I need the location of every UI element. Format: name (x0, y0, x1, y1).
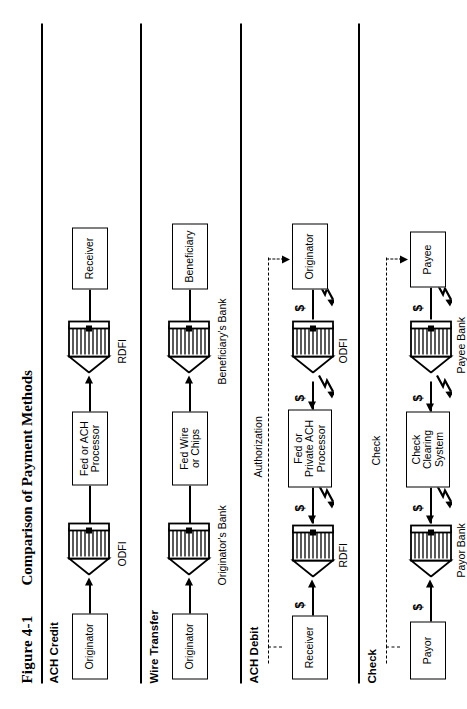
dollar-symbol: $ (411, 504, 425, 511)
connector-line (89, 289, 91, 321)
node-label: Receiver (304, 626, 316, 667)
dollar-symbol: $ (293, 601, 307, 608)
section-label-ach-credit: ACH Credit (48, 622, 60, 683)
bank-label-odfi-ach-debit: ODFI (337, 338, 349, 363)
connector-line (89, 583, 91, 613)
bank-icon-odfi-ach-credit (66, 521, 112, 575)
bank-label-payor-bank: Payor Bank (455, 523, 467, 577)
section-label-check: Check (366, 648, 378, 683)
node-label-line2: Processor (90, 424, 102, 471)
node-check-clearing-system[interactable]: Check Clearing System (406, 411, 450, 487)
node-label: Receiver (84, 237, 96, 278)
connector-line (189, 381, 191, 411)
arrow-head-icon (426, 579, 434, 587)
bank-label-odfi-ach-credit: ODFI (116, 541, 128, 566)
dollar-symbol: $ (293, 394, 307, 401)
section-divider (240, 23, 242, 683)
arrow-head-icon (185, 375, 193, 383)
bank-icon-rdfi-ach-debit (290, 523, 336, 577)
connector-line (189, 485, 191, 523)
node-originator-ach-debit[interactable]: Originator (292, 223, 328, 289)
arrow-head-icon (282, 255, 290, 263)
bank-label-rdfi-ach-credit: RDFI (116, 339, 128, 364)
node-label: Originator (304, 233, 316, 279)
node-label: Beneficiary (184, 230, 196, 282)
node-fedwire-chips[interactable]: Fed Wire or Chips (172, 411, 208, 485)
lightning-bolt-icon (318, 373, 334, 413)
bank-label-rdfi-ach-debit: RDFI (337, 543, 349, 568)
arrow-head-icon (426, 403, 434, 411)
bank-icon-payor-bank (408, 523, 454, 577)
node-label-line3: Processor (316, 424, 328, 471)
node-label-line2: or Chips (190, 428, 202, 467)
arrow-head-icon (85, 577, 93, 585)
node-payor[interactable]: Payor (410, 621, 446, 679)
lightning-bolt-icon (436, 373, 452, 413)
arrow-head-icon (185, 577, 193, 585)
node-originator-wire[interactable]: Originator (172, 613, 208, 679)
section-label-ach-debit: ACH Debit (248, 626, 260, 683)
authorization-dashed-line (268, 645, 269, 663)
bank-label-originators-bank: Originator's Bank (216, 505, 228, 585)
connector-line (312, 289, 314, 319)
node-receiver-ach-debit[interactable]: Receiver (292, 615, 328, 679)
bank-icon-originators-bank (166, 521, 212, 575)
node-label-line3: System (434, 432, 446, 467)
section-label-wire-transfer: Wire Transfer (148, 610, 160, 683)
bank-label-payee-bank: Payee Bank (455, 316, 467, 373)
dollar-symbol: $ (411, 603, 425, 610)
bank-label-beneficiarys-bank: Beneficiary's Bank (216, 298, 228, 384)
check-dashed-line (386, 645, 387, 663)
node-label: Originator (184, 623, 196, 669)
node-beneficiary[interactable]: Beneficiary (172, 223, 208, 289)
bank-icon-beneficiarys-bank (166, 319, 212, 373)
arrow-head-icon (308, 401, 316, 409)
node-originator-ach-credit[interactable]: Originator (72, 613, 108, 679)
connector-line (189, 583, 191, 613)
connector-line (430, 585, 432, 621)
figure-title-row: Figure 4-1Comparison of Payment Methods (18, 23, 36, 683)
node-label: Payor (422, 636, 434, 663)
connector-line (89, 485, 91, 523)
dollar-symbol: $ (293, 304, 307, 311)
check-dashed-line (386, 646, 400, 647)
dollar-symbol: $ (293, 504, 307, 511)
dollar-symbol: $ (411, 304, 425, 311)
arrow-head-icon (308, 579, 316, 587)
dollar-symbol: $ (411, 394, 425, 401)
node-receiver-ach-credit[interactable]: Receiver (72, 227, 108, 289)
authorization-label: Authorization (252, 416, 264, 477)
authorization-dashed-line (268, 257, 269, 647)
node-payee[interactable]: Payee (410, 231, 446, 287)
check-flow-label: Check (370, 435, 382, 465)
bank-icon-rdfi-ach-credit (66, 319, 112, 373)
bank-icon-payee-bank (408, 319, 454, 373)
arrow-head-icon (426, 515, 434, 523)
node-label: Originator (84, 623, 96, 669)
page-title: Comparison of Payment Methods (19, 370, 35, 585)
section-divider (140, 23, 142, 683)
authorization-dashed-line (268, 646, 282, 647)
connector-line (312, 585, 314, 615)
connector-line (89, 381, 91, 411)
node-processor-ach-credit[interactable]: Fed or ACH Processor (72, 411, 108, 485)
section-divider (358, 23, 360, 683)
node-processor-ach-debit[interactable]: Fed or Private ACH Processor (288, 409, 332, 487)
figure-number: Figure 4-1 (19, 615, 35, 683)
bank-icon-odfi-ach-debit (290, 319, 336, 373)
arrow-head-icon (308, 515, 316, 523)
arrow-head-icon (85, 375, 93, 383)
arrow-head-icon (400, 255, 408, 263)
connector-line (189, 289, 191, 321)
lightning-bolt-icon (318, 483, 334, 523)
node-label: Payee (422, 244, 434, 274)
title-divider (41, 23, 43, 683)
lightning-bolt-icon (436, 483, 452, 523)
check-dashed-line (386, 257, 387, 647)
connector-line (430, 287, 432, 319)
